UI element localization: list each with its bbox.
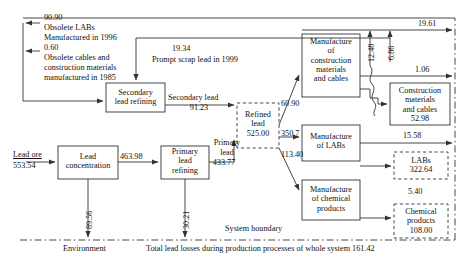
primary-lead-label-2: lead [205,148,249,158]
export-5-40-value: 5.40 [408,187,422,197]
export-15-58-value: 15.58 [403,131,421,141]
prompt-scrap-value: 19.34 [172,44,190,54]
refined-to-labs-value: 350.7 [281,129,299,139]
label-labs-stock: LABs 322.64 [394,156,448,175]
export-19-61-value: 19.61 [418,19,436,29]
label-construction-materials-and-cables: Construction materials and cables 52.98 [390,86,450,123]
lead-ore-label: Lead ore [13,150,42,160]
secondary-lead-label: Secondary lead [168,93,218,103]
brace-construction [370,66,376,116]
obsolete-labs-value: 90.90 [44,13,62,23]
lead-ore-value: 553.54 [13,161,36,171]
lead-flow-diagram: 90.90 Obsolete LABs Manufactured in 1996… [0,0,475,267]
loss-12-48-value: 12.48 [367,44,376,62]
primary-lead-value: 433.77 [202,158,246,168]
loss-6-86-value: 6.86 [387,46,396,60]
concentrate-value: 463.98 [120,152,143,162]
secondary-lead-value: 91.23 [168,103,230,113]
refined-to-construction-value: 60.90 [281,99,299,109]
obsolete-cables-text-line2: construction materials [44,63,117,73]
label-manufacture-construction: Manufacture of construction materials an… [302,37,360,83]
export-1-06-value: 1.06 [415,65,429,75]
obsolete-cables-value: 0.60 [44,43,58,53]
refined-to-chemical-value: 113.40 [281,150,303,160]
total-losses-label: Total lead losses during production proc… [146,244,375,254]
prompt-scrap-label: Prompt scrap lead in 1999 [152,55,238,65]
system-boundary-label: System boundary [225,224,282,234]
obsolete-labs-text-line2: Manufactured in 1996 [44,33,117,43]
label-manufacture-labs: Manufacture of LABs [302,132,360,151]
label-manufacture-chemical: Manufacture of chemical products [302,185,360,213]
primary-refining-loss-value: 30.21 [182,211,191,229]
label-secondary-lead-refining: Secondary lead refining [106,88,165,107]
label-chemical-products-stock: Chemical products 108.00 [394,207,448,235]
obsolete-labs-text-line1: Obsolete LABs [44,23,95,33]
concentration-loss-value: 89.56 [85,211,94,229]
obsolete-cables-text-line3: manufactured in 1985 [44,73,116,83]
label-refined-lead: Refined lead 525.00 [237,110,279,138]
label-lead-concentration: Lead concentration [58,152,118,171]
primary-lead-label-1: Primary [205,138,249,148]
obsolete-cables-text-line1: Obsolete cables and [44,53,109,63]
environment-label: Environment [63,244,106,254]
